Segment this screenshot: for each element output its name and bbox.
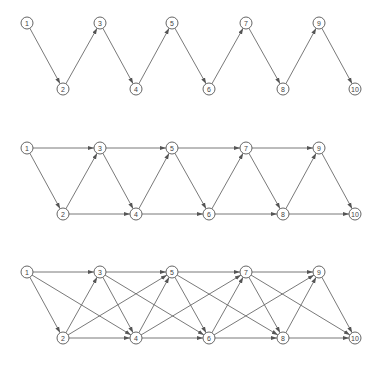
edge-1-2: [30, 153, 60, 208]
node-label: 9: [317, 269, 321, 276]
node-7: 7: [240, 17, 252, 29]
node-5: 5: [166, 142, 178, 154]
edge-8-9: [286, 277, 316, 332]
node-9: 9: [313, 17, 325, 29]
node-label: 1: [25, 269, 29, 276]
node-label: 4: [134, 86, 138, 93]
node-label: 2: [61, 211, 65, 218]
edge-8-9: [286, 153, 316, 208]
edge-5-6: [175, 277, 206, 333]
node-2: 2: [57, 208, 69, 220]
node-label: 5: [170, 269, 174, 276]
node-label: 5: [170, 145, 174, 152]
graph-k3: 12345678910: [21, 266, 361, 344]
node-1: 1: [21, 142, 33, 154]
node-3: 3: [94, 266, 106, 278]
edge-3-4: [103, 28, 133, 83]
edge-8-9: [286, 28, 316, 83]
edge-7-8: [249, 153, 280, 209]
node-4: 4: [130, 332, 142, 344]
node-label: 8: [281, 86, 285, 93]
node-6: 6: [203, 208, 215, 220]
edge-2-3: [66, 153, 97, 209]
node-label: 8: [281, 335, 285, 342]
node-label: 2: [61, 335, 65, 342]
edge-4-5: [139, 28, 169, 83]
edge-2-3: [66, 277, 97, 333]
node-1: 1: [21, 17, 33, 29]
node-label: 2: [61, 86, 65, 93]
node-label: 6: [207, 86, 211, 93]
node-10: 10: [349, 208, 361, 220]
graph-k1: 12345678910: [21, 17, 361, 95]
diagram-canvas: 12345678910 12345678910 12345678910: [0, 0, 381, 367]
node-4: 4: [130, 208, 142, 220]
node-8: 8: [277, 208, 289, 220]
edge-5-6: [175, 153, 206, 209]
edge-4-5: [139, 277, 169, 332]
edge-3-4: [103, 153, 133, 208]
node-6: 6: [203, 332, 215, 344]
edge-9-10: [322, 153, 352, 208]
edge-5-6: [175, 28, 206, 84]
node-label: 10: [351, 211, 359, 218]
node-9: 9: [313, 266, 325, 278]
node-10: 10: [349, 83, 361, 95]
node-label: 5: [170, 20, 174, 27]
graph-k2: 12345678910: [21, 142, 361, 220]
edge-7-8: [249, 277, 280, 333]
node-3: 3: [94, 142, 106, 154]
node-label: 8: [281, 211, 285, 218]
edge-4-5: [139, 153, 169, 208]
edge-6-7: [212, 28, 243, 84]
edge-9-10: [322, 277, 352, 332]
node-2: 2: [57, 83, 69, 95]
node-4: 4: [130, 83, 142, 95]
node-label: 1: [25, 20, 29, 27]
node-label: 4: [134, 211, 138, 218]
edge-7-8: [249, 28, 280, 84]
node-label: 9: [317, 20, 321, 27]
node-label: 6: [207, 211, 211, 218]
edge-9-10: [322, 28, 352, 83]
node-9: 9: [313, 142, 325, 154]
node-label: 3: [98, 145, 102, 152]
node-7: 7: [240, 266, 252, 278]
node-10: 10: [349, 332, 361, 344]
node-8: 8: [277, 332, 289, 344]
node-label: 7: [244, 145, 248, 152]
node-label: 7: [244, 20, 248, 27]
edge-1-2: [30, 28, 60, 83]
node-label: 3: [98, 20, 102, 27]
node-8: 8: [277, 83, 289, 95]
node-7: 7: [240, 142, 252, 154]
node-label: 7: [244, 269, 248, 276]
node-5: 5: [166, 266, 178, 278]
node-label: 10: [351, 335, 359, 342]
node-2: 2: [57, 332, 69, 344]
node-3: 3: [94, 17, 106, 29]
node-6: 6: [203, 83, 215, 95]
node-label: 9: [317, 145, 321, 152]
edge-1-2: [30, 277, 60, 332]
node-label: 3: [98, 269, 102, 276]
node-label: 10: [351, 86, 359, 93]
edge-6-7: [212, 277, 243, 333]
node-label: 4: [134, 335, 138, 342]
edge-6-7: [212, 153, 243, 209]
edge-2-3: [66, 28, 97, 84]
node-label: 1: [25, 145, 29, 152]
node-label: 6: [207, 335, 211, 342]
node-1: 1: [21, 266, 33, 278]
edge-3-4: [103, 277, 133, 332]
node-5: 5: [166, 17, 178, 29]
